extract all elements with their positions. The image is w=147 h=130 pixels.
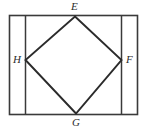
figure-canvas — [0, 0, 147, 130]
vertex-label-E: E — [71, 1, 78, 12]
geometry-figure: E F G H — [0, 0, 147, 130]
vertex-label-H: H — [13, 54, 21, 65]
vertex-label-G: G — [72, 117, 80, 128]
vertex-label-F: F — [126, 54, 133, 65]
